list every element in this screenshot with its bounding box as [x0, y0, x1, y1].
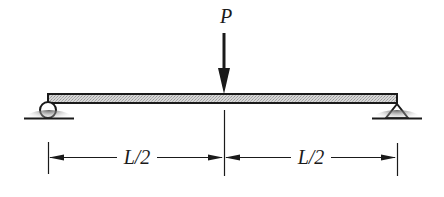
load-arrow-head-icon [218, 68, 230, 94]
dim-arrow-right-icon [381, 155, 396, 161]
dimension-extensions [49, 110, 398, 176]
beam [48, 94, 397, 103]
dim-arrow-left-icon [225, 155, 240, 161]
load-label: P [219, 5, 232, 27]
point-load: P [218, 5, 232, 94]
pin-support-right [372, 104, 422, 128]
roller-support-left [24, 102, 74, 128]
beam-diagram: P L/2 L/2 [0, 0, 444, 197]
dimension-label-left: L/2 [123, 146, 151, 168]
dimension-label-right: L/2 [297, 146, 325, 168]
dimension-left-half: L/2 [49, 146, 223, 168]
dim-arrow-right-icon [208, 155, 223, 161]
beam-body [48, 94, 397, 103]
dimension-right-half: L/2 [225, 146, 396, 168]
dim-arrow-left-icon [49, 155, 64, 161]
